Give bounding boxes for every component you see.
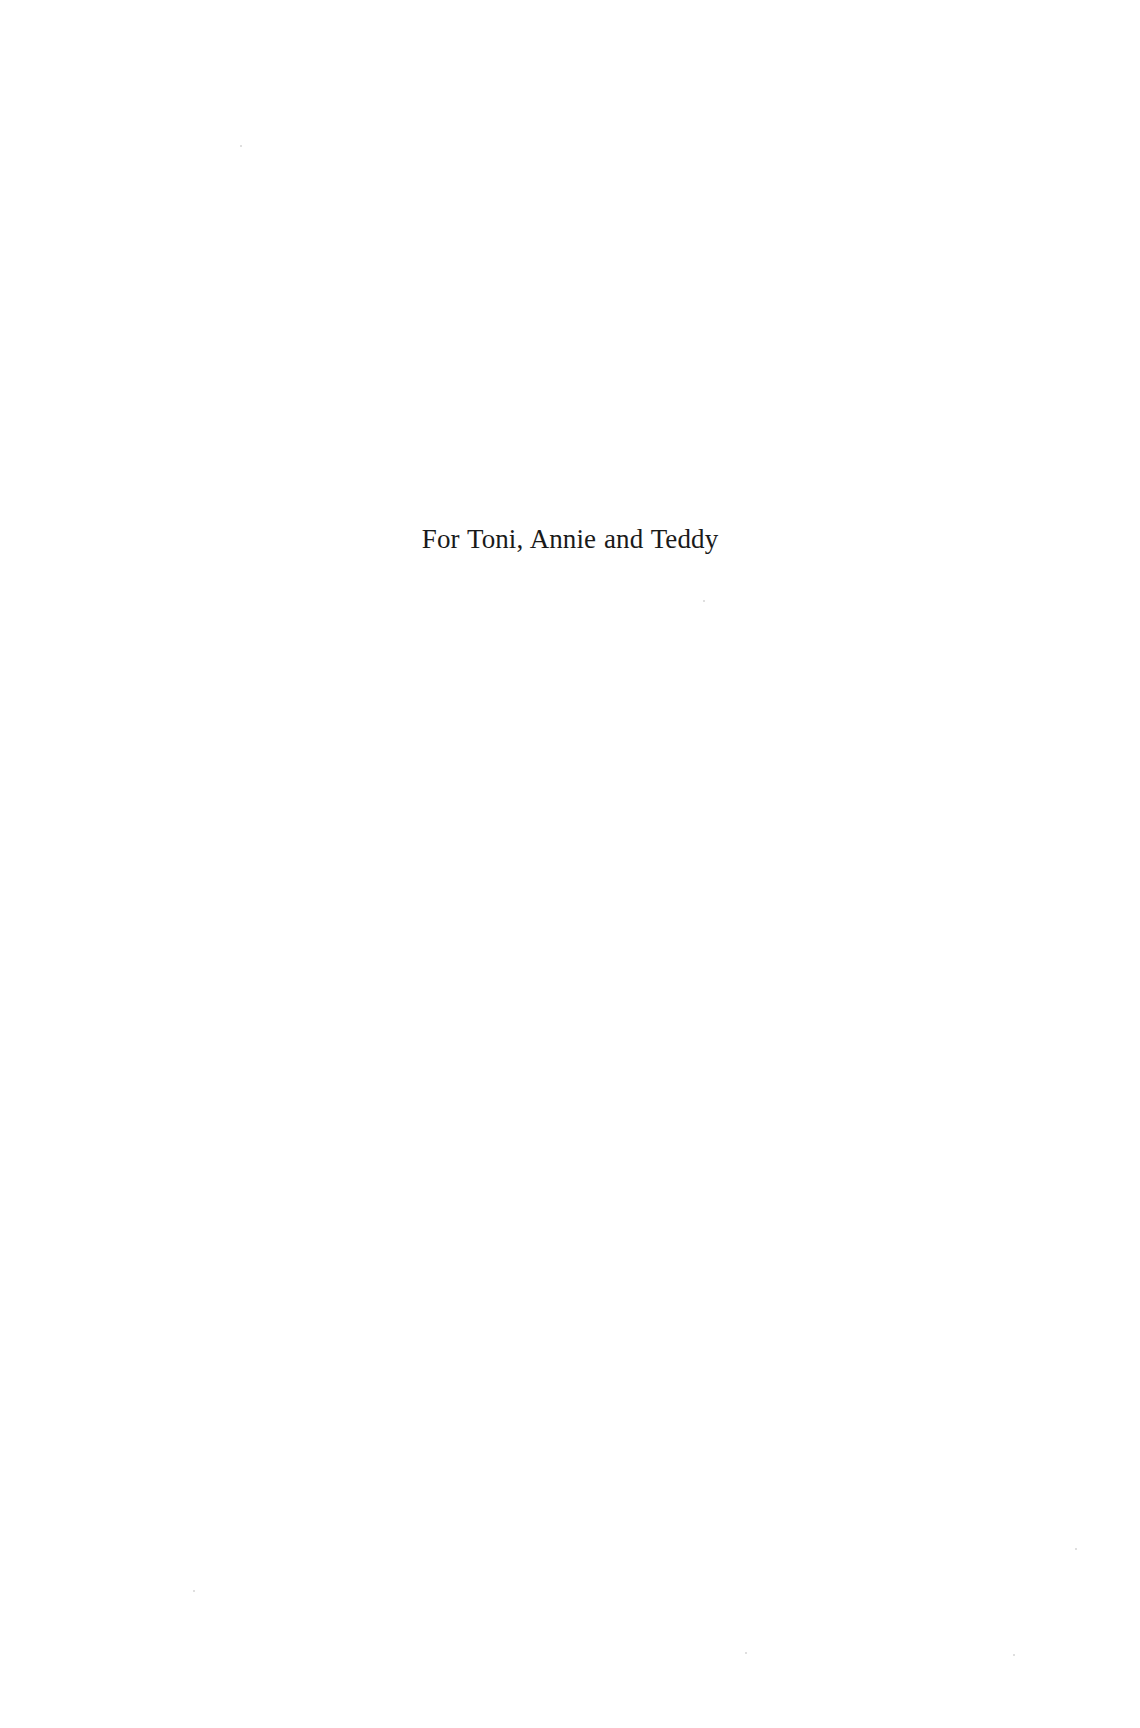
scan-speck	[703, 600, 705, 602]
dedication-text: For Toni, Annie and Teddy	[0, 521, 1140, 557]
scan-speck	[240, 145, 242, 147]
book-page: For Toni, Annie and Teddy	[0, 0, 1140, 1728]
scan-speck	[193, 1590, 195, 1592]
scan-speck	[745, 1652, 747, 1654]
scan-speck	[1013, 1654, 1015, 1656]
scan-speck	[1075, 1548, 1077, 1550]
